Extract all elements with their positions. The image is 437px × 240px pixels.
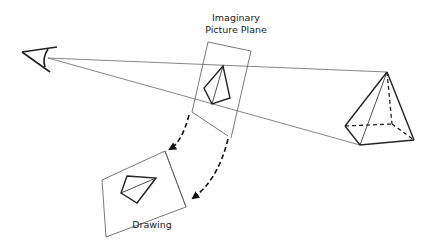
eye-icon bbox=[22, 47, 57, 72]
drawing-label: Drawing bbox=[122, 219, 182, 231]
projection-diagram bbox=[0, 0, 437, 240]
picture-plane-label: Imaginary Picture Plane bbox=[196, 12, 276, 36]
picture-plane bbox=[192, 42, 251, 138]
rotation-arrows bbox=[170, 115, 228, 198]
drawn-kite bbox=[121, 176, 156, 203]
picture-plane-label-line2: Picture Plane bbox=[196, 24, 276, 36]
pyramid bbox=[345, 72, 414, 145]
picture-plane-label-line1: Imaginary bbox=[196, 12, 276, 24]
projected-kite bbox=[204, 66, 230, 104]
